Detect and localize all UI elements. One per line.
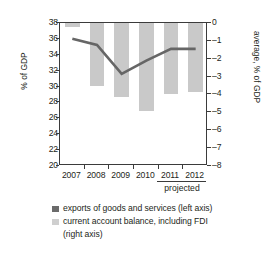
legend-label-current-account-line2: (right axis) <box>0 229 268 241</box>
y-axis-tick-label: 32 <box>32 66 58 75</box>
legend-swatch-exports-icon <box>52 206 59 213</box>
y2-axis-tick-label: –1 <box>212 36 236 45</box>
chart-legend: exports of goods and services (left axis… <box>0 203 268 241</box>
y2-axis-tickmark <box>207 111 211 112</box>
y2-axis-tickmark <box>207 58 211 59</box>
plot-area-wrapper: 38 36 34 32 30 28 26 24 22 20 % of GDP 0… <box>0 0 268 200</box>
y2-axis-tick-label: –2 <box>212 54 236 63</box>
y2-axis-tick-label: –4 <box>212 89 236 98</box>
y2-axis-tickmark <box>207 147 211 148</box>
legend-swatch-current-account-icon <box>52 219 59 226</box>
y2-axis-tick-label: –7 <box>212 143 236 152</box>
chart-figure: 38 36 34 32 30 28 26 24 22 20 % of GDP 0… <box>0 0 268 262</box>
y-axis-label-left: % of GDP <box>19 41 29 101</box>
x-axis-tick-label: 2012 <box>180 170 210 180</box>
x-axis-tickmark <box>182 165 183 169</box>
y2-axis-tick-label: –5 <box>212 107 236 116</box>
y2-axis-tickmark <box>207 129 211 130</box>
y-axis-tick-label: 26 <box>32 113 58 122</box>
legend-label-exports: exports of goods and services (left axis… <box>63 203 268 215</box>
legend-item-exports: exports of goods and services (left axis… <box>0 203 268 215</box>
exports-line-path <box>72 39 195 74</box>
y-axis-tickmark <box>56 165 60 166</box>
x-axis-tickmark <box>84 165 85 169</box>
x-axis-tickmark <box>158 165 159 169</box>
y-axis-tick-label: 24 <box>32 129 58 138</box>
y2-axis-tick-label: –3 <box>212 72 236 81</box>
x-axis-tickmark <box>133 165 134 169</box>
y2-axis-tickmark <box>207 93 211 94</box>
legend-item-current-account: current account balance, including FDI <box>0 216 268 228</box>
y2-axis-tickmark <box>207 22 211 23</box>
y-axis-tick-label: 20 <box>32 161 58 170</box>
plot-area <box>59 22 207 165</box>
y2-axis-tick-label: –8 <box>212 161 236 170</box>
y-axis-tick-label: 30 <box>32 82 58 91</box>
y-axis-tick-label: 28 <box>32 97 58 106</box>
x-axis-tickmark <box>108 165 109 169</box>
y-axis-tick-label: 38 <box>32 18 58 27</box>
projected-underline <box>157 181 206 182</box>
y2-axis-tickmark <box>207 165 211 166</box>
projected-label: projected <box>150 183 214 193</box>
y2-axis-tick-label: –6 <box>212 125 236 134</box>
y2-axis-tickmark <box>207 40 211 41</box>
y-axis-tick-label: 22 <box>32 145 58 154</box>
y2-axis-tickmark <box>207 76 211 77</box>
y-axis-tick-label: 36 <box>32 34 58 43</box>
exports-line-series <box>60 23 207 165</box>
y-axis-label-right: average, % of GDP <box>252 24 262 110</box>
y-axis-tick-label: 34 <box>32 50 58 59</box>
legend-label-current-account: current account balance, including FDI <box>63 216 268 228</box>
y2-axis-tick-label: 0 <box>212 18 236 27</box>
